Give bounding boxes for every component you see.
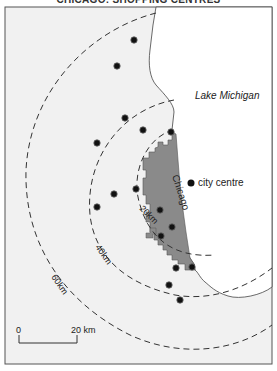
city-centre-label: city centre bbox=[198, 177, 244, 188]
shopping-centre-dot bbox=[133, 186, 139, 192]
shopping-centre-dot bbox=[177, 297, 183, 303]
shopping-centre-dot bbox=[189, 264, 195, 270]
shopping-centre-dot bbox=[157, 207, 163, 213]
shopping-centre-dot bbox=[114, 63, 120, 69]
shopping-centre-dot bbox=[168, 129, 174, 135]
shopping-centre-dot bbox=[169, 224, 175, 230]
shopping-centre-dot bbox=[111, 191, 117, 197]
shopping-centre-dot bbox=[166, 282, 172, 288]
scale-end-label: 20 km bbox=[71, 325, 96, 335]
scale-zero-label: 0 bbox=[16, 325, 21, 335]
city-centre-marker bbox=[188, 180, 195, 187]
shopping-centre-dot bbox=[158, 233, 164, 239]
shopping-centre-dot bbox=[140, 127, 146, 133]
shopping-centre-dot bbox=[173, 265, 179, 271]
map-canvas: Lake Michigan city centre Chicago 20km 4… bbox=[0, 0, 277, 371]
shopping-centre-dot bbox=[94, 140, 100, 146]
shopping-centre-dot bbox=[122, 115, 128, 121]
shopping-centre-dot bbox=[94, 204, 100, 210]
shopping-centre-dot bbox=[131, 37, 137, 43]
lake-label: Lake Michigan bbox=[195, 90, 260, 101]
